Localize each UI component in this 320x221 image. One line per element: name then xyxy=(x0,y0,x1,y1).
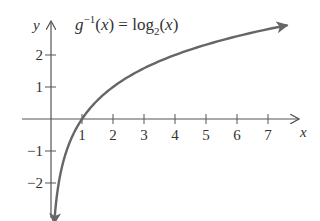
y-tick-label: 2 xyxy=(36,47,44,63)
y-tick-label: −2 xyxy=(27,175,43,191)
x-tick-label: 2 xyxy=(109,127,117,143)
title-tail: (x) xyxy=(159,15,178,34)
x-ticks: 1234567 xyxy=(78,114,272,143)
title-sup: −1 xyxy=(84,13,96,25)
chart-title: g−1(x) = log2(x) xyxy=(75,13,178,37)
y-tick-label: 1 xyxy=(36,79,44,95)
x-tick-label: 3 xyxy=(140,127,148,143)
x-tick-label: 7 xyxy=(264,127,272,143)
chart: 1234567 21−1−2 x y g−1(x) = log2(x) xyxy=(0,0,320,221)
log2-curve xyxy=(55,25,287,215)
title-arg: (x) = log xyxy=(95,15,154,34)
x-tick-label: 4 xyxy=(171,127,179,143)
x-tick-label: 6 xyxy=(233,127,241,143)
y-axis-label: y xyxy=(31,17,40,33)
x-tick-label: 5 xyxy=(202,127,210,143)
y-tick-label: −1 xyxy=(27,143,43,159)
x-axis-label: x xyxy=(299,124,307,140)
x-tick-label: 1 xyxy=(78,127,86,143)
title-func: g xyxy=(75,15,84,34)
